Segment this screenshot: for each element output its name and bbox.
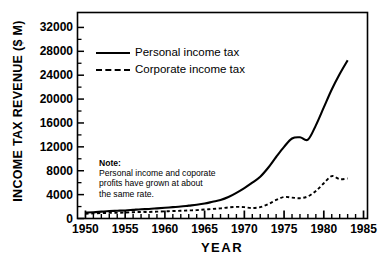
plot-area: [0, 0, 381, 266]
chart-note-line-1: Personal income and coporate: [99, 168, 224, 178]
chart-note-title: Note:: [99, 158, 224, 168]
chart-note: Note: Personal income and coporate profi…: [99, 158, 224, 199]
legend-item-personal: Personal income tax: [96, 44, 245, 61]
chart-note-line-3: the same rate.: [99, 189, 224, 199]
chart-legend: Personal income tax Corporate income tax: [96, 44, 245, 78]
legend-key-dashed-line-icon: [96, 65, 130, 75]
chart-container: INCOME TAX REVENUE ($ M) 040008000120001…: [0, 0, 381, 266]
legend-label-personal: Personal income tax: [135, 44, 239, 61]
legend-label-corporate: Corporate income tax: [135, 61, 245, 78]
chart-note-line-2: profits have grown at about: [99, 178, 224, 188]
legend-key-solid-line-icon: [96, 48, 130, 58]
legend-item-corporate: Corporate income tax: [96, 61, 245, 78]
